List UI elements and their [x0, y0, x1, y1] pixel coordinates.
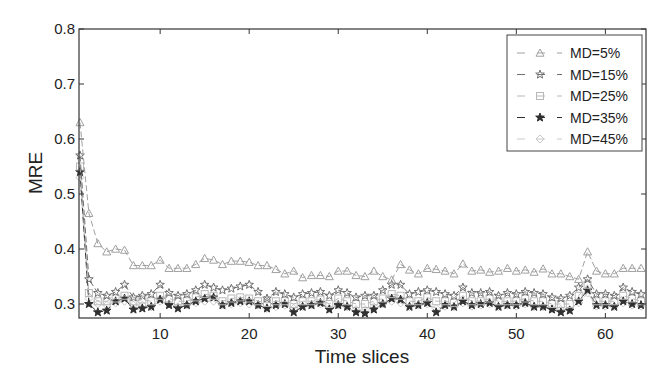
y-axis-label: MRE [25, 152, 46, 194]
legend: MD=5%MD=15%MD=25%MD=35%MD=45% [507, 35, 642, 151]
x-tick-label: 60 [597, 325, 614, 342]
y-tick-label: 0.4 [54, 240, 75, 257]
y-tick-label: 0.5 [54, 185, 75, 202]
x-tick-label: 30 [330, 325, 347, 342]
legend-item-label: MD=35% [570, 110, 628, 126]
y-tick-label: 0.3 [54, 295, 75, 312]
x-tick-label: 50 [508, 325, 525, 342]
y-tick-label: 0.8 [54, 20, 75, 37]
x-axis-label: Time slices [315, 346, 409, 367]
mre-line-chart: 0.30.40.50.60.70.8102030405060 Time slic… [0, 0, 668, 390]
y-tick-label: 0.7 [54, 75, 75, 92]
x-tick-label: 40 [419, 325, 436, 342]
x-tick-label: 10 [152, 325, 169, 342]
legend-item-label: MD=15% [570, 67, 628, 83]
y-tick-label: 0.6 [54, 130, 75, 147]
legend-item-label: MD=25% [570, 88, 628, 104]
legend-item-label: MD=45% [570, 131, 628, 147]
series-md15 [76, 151, 646, 302]
x-tick-label: 20 [241, 325, 258, 342]
legend-item-label: MD=5% [570, 45, 620, 61]
